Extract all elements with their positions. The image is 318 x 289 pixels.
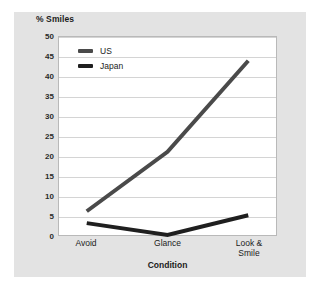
legend-entry-us: US — [78, 44, 123, 57]
x-tick-label-line: Look & — [214, 238, 284, 248]
series-line-japan — [87, 215, 249, 235]
y-tick-label: 0 — [26, 232, 54, 241]
x-tick-label-line: Smile — [214, 248, 284, 258]
x-axis-title: Condition — [58, 260, 277, 270]
chart-figure: % Smiles 05101520253035404550 US Japan A… — [0, 0, 318, 289]
legend-swatch-japan-icon — [78, 64, 93, 68]
y-tick-label: 45 — [26, 52, 54, 61]
legend-label-japan: Japan — [100, 61, 123, 71]
legend-label-us: US — [100, 46, 112, 56]
legend-entry-japan: Japan — [78, 59, 123, 72]
y-tick-label: 20 — [26, 152, 54, 161]
chart-legend: US Japan — [78, 44, 123, 74]
series-line-us — [87, 61, 249, 211]
x-tick-label: Look &Smile — [214, 238, 284, 258]
y-tick-label: 30 — [26, 112, 54, 121]
y-tick-label: 15 — [26, 172, 54, 181]
chart-title: % Smiles — [36, 14, 74, 24]
y-tick-label: 40 — [26, 72, 54, 81]
y-tick-label: 5 — [26, 212, 54, 221]
x-tick-label: Avoid — [51, 238, 121, 248]
x-tick-label-line: Glance — [133, 238, 203, 248]
y-tick-label: 50 — [26, 32, 54, 41]
x-tick-label-line: Avoid — [51, 238, 121, 248]
x-tick-label: Glance — [133, 238, 203, 248]
y-axis-tick-labels: 05101520253035404550 — [24, 36, 54, 236]
y-tick-label: 25 — [26, 132, 54, 141]
legend-swatch-us-icon — [78, 49, 93, 53]
y-tick-label: 10 — [26, 192, 54, 201]
y-tick-label: 35 — [26, 92, 54, 101]
